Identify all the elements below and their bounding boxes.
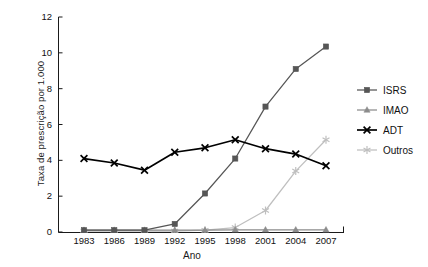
x-axis-tick-label: 2007 [306,236,346,246]
legend-item-imao[interactable]: IMAO [356,100,426,120]
data-point-marker [364,87,369,92]
data-point-marker [263,104,268,109]
data-point-marker [293,66,298,71]
plot-area [58,15,346,233]
data-point-marker [323,162,330,169]
data-point-marker [202,191,207,196]
legend-symbol-triangle-icon [356,103,378,117]
x-axis-title-text: Ano [183,250,201,261]
legend-label: IMAO [383,105,409,116]
y-axis-tick-label: 8 [28,84,52,94]
legend-label: Outros [383,145,413,156]
y-axis-tick-label: 12 [28,12,52,22]
series-isrs [81,44,328,233]
series-adt [81,136,330,173]
data-point-marker [323,44,328,49]
y-axis-ticks [59,17,63,232]
y-axis-tick-label: 4 [28,155,52,165]
legend-label: ISRS [383,85,406,96]
legend-symbol-square-icon [356,83,378,97]
legend-symbol-asterisk-icon [356,143,378,157]
legend-symbol-x-icon [356,123,378,137]
prescription-rate-line-chart: Taxa de prescrição por 1.000 024681012 1… [0,0,428,267]
data-point-marker [233,156,238,161]
data-point-marker [112,228,117,233]
data-point-marker [81,228,86,233]
series-outros [81,136,330,233]
legend-item-adt[interactable]: ADT [356,120,426,140]
axis-lines [59,17,345,233]
y-axis-tick-label: 0 [28,227,52,237]
y-axis-tick-labels: 024681012 [26,0,52,267]
data-point-marker [172,221,177,226]
legend-item-isrs[interactable]: ISRS [356,80,426,100]
legend-label: ADT [383,125,403,136]
x-axis-title: Ano [0,250,428,261]
data-point-marker [142,228,147,233]
y-axis-tick-label: 2 [28,191,52,201]
y-axis-tick-label: 10 [28,48,52,58]
legend-item-outros[interactable]: Outros [356,140,426,160]
plot-svg [58,15,346,233]
chart-legend: ISRSIMAOADTOutros [356,80,426,160]
y-axis-tick-label: 6 [28,120,52,130]
